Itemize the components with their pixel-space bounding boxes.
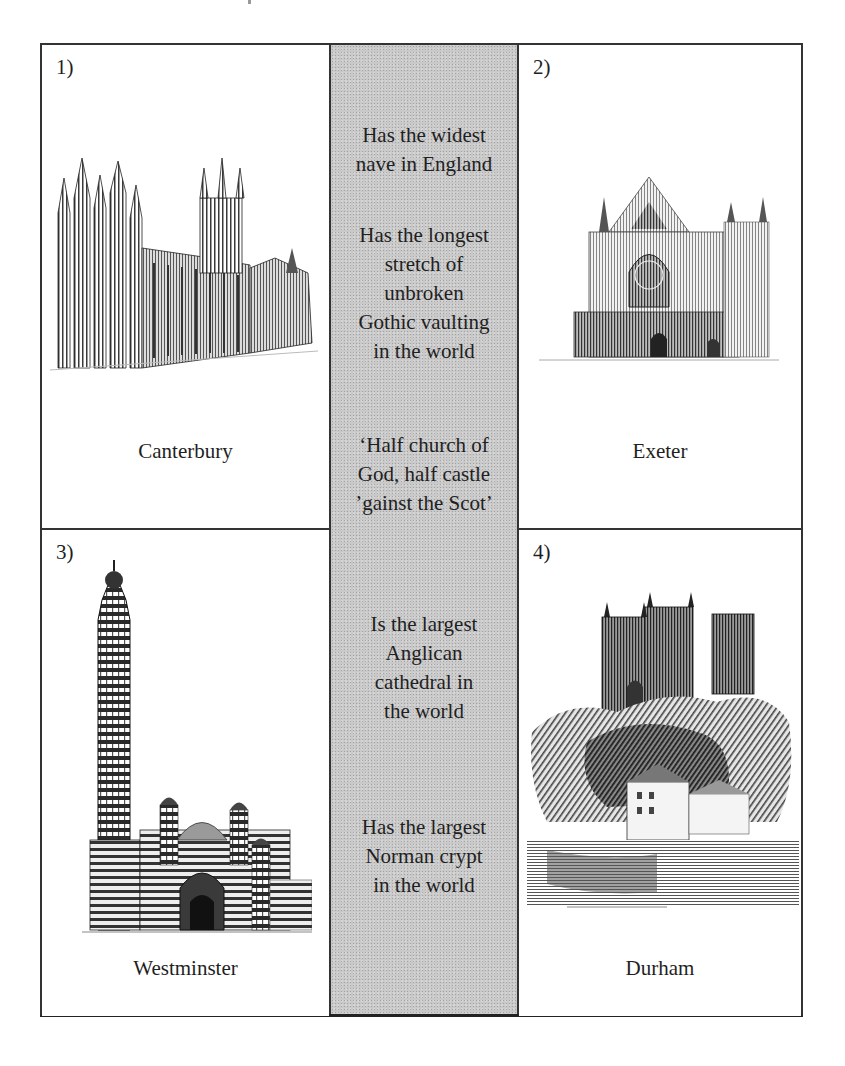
fact-line: cathedral in xyxy=(331,668,517,697)
panel-number: 2) xyxy=(533,55,551,80)
fact-line: nave in England xyxy=(331,150,517,179)
cathedral-drawing-icon xyxy=(62,540,312,940)
fact-line: Has the longest xyxy=(331,221,517,250)
durham-cathedral-illustration xyxy=(527,592,799,912)
westminster-cathedral-illustration xyxy=(62,540,312,940)
panel-durham: 4) xyxy=(519,530,801,1016)
fact-line: Norman crypt xyxy=(331,842,517,871)
cathedral-name: Exeter xyxy=(519,439,801,464)
fact-line: Has the widest xyxy=(331,121,517,150)
fact-largest-anglican-cathedral: Is the largest Anglican cathedral in the… xyxy=(331,610,517,726)
cathedral-drawing-icon xyxy=(50,153,318,375)
fact-line: the world xyxy=(331,697,517,726)
fact-line: in the world xyxy=(331,337,517,366)
fact-line: God, half castle xyxy=(331,460,517,489)
exeter-cathedral-illustration xyxy=(539,167,779,367)
panel-exeter: 2) xyxy=(519,45,801,530)
facts-column: Has the widest nave in England Has the l… xyxy=(329,45,519,1014)
fact-line: ’gainst the Scot’ xyxy=(331,489,517,518)
page-mark xyxy=(248,0,251,4)
panel-canterbury: 1) xyxy=(42,45,329,530)
panel-westminster: 3) xyxy=(42,530,329,1016)
cathedral-name: Durham xyxy=(519,956,801,981)
fact-line: ‘Half church of xyxy=(331,431,517,460)
fact-line: unbroken xyxy=(331,279,517,308)
fact-line: in the world xyxy=(331,871,517,900)
cathedral-name: Westminster xyxy=(42,956,329,981)
canterbury-cathedral-illustration xyxy=(50,153,318,375)
fact-line: stretch of xyxy=(331,250,517,279)
fact-largest-norman-crypt: Has the largest Norman crypt in the worl… xyxy=(331,813,517,900)
panel-number: 4) xyxy=(533,540,551,565)
cathedral-drawing-icon xyxy=(539,167,779,367)
fact-half-church-half-castle: ‘Half church of God, half castle ’gainst… xyxy=(331,431,517,518)
cathedral-drawing-icon xyxy=(527,592,799,912)
fact-line: Anglican xyxy=(331,639,517,668)
fact-line: Is the largest xyxy=(331,610,517,639)
cathedral-name: Canterbury xyxy=(42,439,329,464)
fact-line: Gothic vaulting xyxy=(331,308,517,337)
fact-longest-gothic-vaulting: Has the longest stretch of unbroken Goth… xyxy=(331,221,517,366)
fact-widest-nave: Has the widest nave in England xyxy=(331,121,517,179)
cathedral-matching-grid: 1) xyxy=(40,43,803,1017)
panel-number: 1) xyxy=(56,55,74,80)
fact-line: Has the largest xyxy=(331,813,517,842)
